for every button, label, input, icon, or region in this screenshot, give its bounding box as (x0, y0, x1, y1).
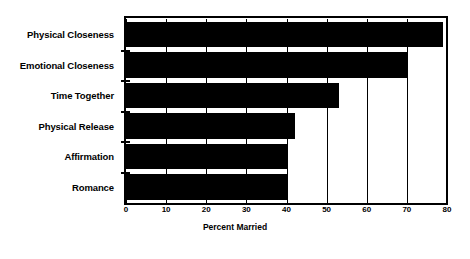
y-tick (121, 172, 130, 174)
x-tick-label: 40 (282, 205, 291, 214)
plot-area (126, 19, 447, 202)
bar (126, 83, 339, 109)
x-tick-label: 20 (202, 205, 211, 214)
category-axis-labels: Physical ClosenessEmotional ClosenessTim… (0, 19, 120, 202)
axis-line-right (446, 16, 448, 205)
x-tick-label: 60 (362, 205, 371, 214)
bar (126, 113, 295, 139)
category-label: Physical Closeness (0, 29, 114, 40)
x-tick-label: 30 (242, 205, 251, 214)
bar (126, 144, 287, 170)
x-tick-label: 80 (443, 205, 452, 214)
x-tick-bottom (287, 198, 288, 203)
category-label: Affirmation (0, 151, 114, 162)
category-label: Romance (0, 181, 114, 192)
category-label: Physical Release (0, 120, 114, 131)
axis-line-top (124, 16, 448, 18)
y-tick (121, 111, 130, 113)
bar (126, 174, 287, 200)
x-tick-label: 50 (322, 205, 331, 214)
category-label: Time Together (0, 90, 114, 101)
category-label: Emotional Closeness (0, 59, 114, 70)
x-tick-top (447, 19, 448, 23)
x-tick-label: 0 (124, 205, 128, 214)
y-tick (121, 141, 130, 143)
y-tick (121, 50, 130, 52)
x-tick-bottom (367, 198, 368, 203)
x-tick-label: 10 (162, 205, 171, 214)
x-tick-label: 70 (402, 205, 411, 214)
x-tick-bottom (407, 198, 408, 203)
y-tick (121, 80, 130, 82)
x-tick-bottom (327, 198, 328, 203)
bar (126, 22, 443, 48)
x-tick-bottom (447, 198, 448, 203)
x-axis-title: Percent Married (0, 222, 470, 232)
bar (126, 52, 407, 78)
bar-chart: Physical ClosenessEmotional ClosenessTim… (0, 0, 470, 259)
